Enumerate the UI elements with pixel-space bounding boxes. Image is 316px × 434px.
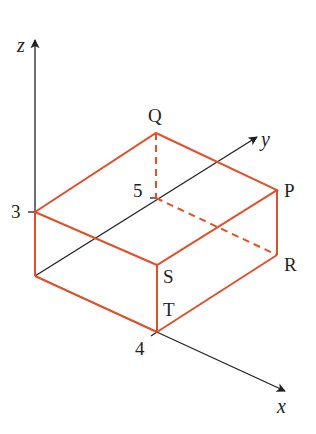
vertex-label-R: R: [284, 255, 297, 274]
y-tick-label: 5: [133, 181, 143, 200]
x-axis-label: x: [277, 396, 286, 416]
y-axis: [35, 137, 257, 276]
vertex-label-T: T: [163, 300, 175, 319]
edge-base-to-R: [156, 198, 277, 255]
edge-T-to-R: [157, 255, 277, 332]
vertex-label-Q: Q: [148, 106, 162, 125]
vertex-label-P: P: [284, 181, 295, 200]
cuboid-diagram: [0, 0, 316, 434]
vertex-label-S: S: [163, 267, 174, 286]
z-tick-label: 3: [11, 202, 21, 221]
hidden-edges: [156, 133, 277, 255]
z-axis-label: z: [17, 35, 25, 55]
edge-origin-to-T: [35, 276, 157, 332]
axes: [28, 40, 285, 391]
y-axis-label: y: [261, 129, 270, 149]
x-tick-label: 4: [135, 339, 145, 358]
